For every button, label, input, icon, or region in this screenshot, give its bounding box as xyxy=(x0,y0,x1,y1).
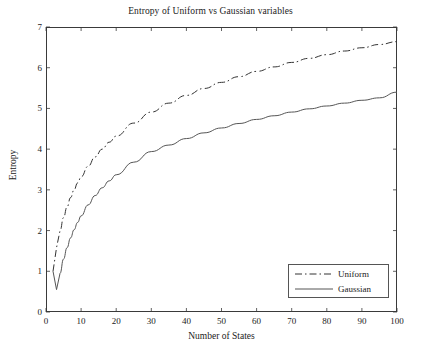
series-line-gaussian xyxy=(53,92,397,289)
chart-figure: Entropy of Uniform vs Gaussian variables… xyxy=(0,0,421,353)
x-tick-20: 20 xyxy=(101,316,131,326)
x-tick-100: 100 xyxy=(382,316,412,326)
legend: Uniform Gaussian xyxy=(288,264,389,298)
x-tick-40: 40 xyxy=(171,316,201,326)
y-tick-1: 1 xyxy=(28,266,42,276)
y-axis-title: Entropy xyxy=(8,130,18,200)
x-tick-0: 0 xyxy=(31,316,61,326)
x-tick-70: 70 xyxy=(277,316,307,326)
series-lines xyxy=(53,42,397,290)
x-axis-title: Number of States xyxy=(46,331,397,341)
y-tick-4: 4 xyxy=(28,144,42,154)
legend-item-gaussian: Gaussian xyxy=(289,281,388,297)
y-tick-6: 6 xyxy=(28,63,42,73)
x-axis-tick-labels: 0102030405060708090100 xyxy=(46,316,397,330)
legend-item-uniform: Uniform xyxy=(289,266,388,282)
series-line-uniform xyxy=(53,42,397,272)
x-tick-50: 50 xyxy=(207,316,237,326)
legend-label-gaussian: Gaussian xyxy=(338,284,371,294)
x-tick-80: 80 xyxy=(312,316,342,326)
y-axis-tick-labels: 01234567 xyxy=(26,27,42,312)
legend-label-uniform: Uniform xyxy=(338,269,369,279)
y-tick-3: 3 xyxy=(28,185,42,195)
y-tick-2: 2 xyxy=(28,226,42,236)
x-tick-90: 90 xyxy=(347,316,377,326)
y-tick-5: 5 xyxy=(28,103,42,113)
y-tick-7: 7 xyxy=(28,22,42,32)
x-tick-60: 60 xyxy=(242,316,272,326)
x-tick-10: 10 xyxy=(66,316,96,326)
legend-line-sample-gaussian xyxy=(294,283,334,295)
chart-title: Entropy of Uniform vs Gaussian variables xyxy=(0,6,421,16)
legend-line-sample-uniform xyxy=(294,268,334,280)
x-tick-30: 30 xyxy=(136,316,166,326)
